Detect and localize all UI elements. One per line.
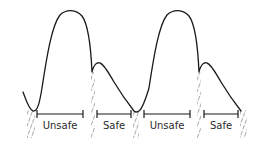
unsafe-bracket-2 bbox=[144, 110, 190, 118]
safe-label-1: Safe bbox=[103, 120, 125, 131]
hatched-marker-4 bbox=[197, 72, 201, 138]
pressure-waveform-curve bbox=[23, 11, 241, 113]
hatched-marker-2 bbox=[91, 72, 95, 138]
hatched-marker-5 bbox=[240, 110, 247, 138]
hatched-marker-3 bbox=[133, 110, 139, 138]
hatched-marker-1 bbox=[27, 110, 35, 138]
safe-bracket-1 bbox=[97, 110, 131, 118]
safe-bracket-2 bbox=[204, 110, 238, 118]
safe-label-2: Safe bbox=[210, 120, 232, 131]
unsafe-label-2: Unsafe bbox=[150, 120, 185, 131]
waveform-diagram: Unsafe Safe Unsafe Safe bbox=[0, 0, 270, 147]
unsafe-bracket-1 bbox=[37, 110, 83, 118]
unsafe-label-1: Unsafe bbox=[43, 120, 78, 131]
